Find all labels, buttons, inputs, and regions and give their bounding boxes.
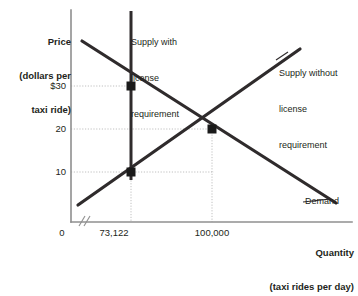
x-tick-73122: 73,122 xyxy=(84,227,144,238)
supply-without-license-curve xyxy=(78,49,300,205)
x-axis-title-line2: (taxi rides per day) xyxy=(228,281,354,292)
x-axis-title-line1: Quantity xyxy=(228,247,354,258)
supply-with-license-label-line3: requirement xyxy=(131,109,179,121)
y-axis-title: Price (dollars per taxi ride) xyxy=(19,14,71,137)
y-tick-10: 10 xyxy=(36,166,66,177)
demand-label: Demand xyxy=(305,196,339,208)
y-tick-20: 20 xyxy=(36,123,66,134)
supply-without-license-label-line2: license xyxy=(279,104,338,116)
supply-without-license-label-line3: requirement xyxy=(279,140,338,152)
supply-with-license-label: Supply with license requirement xyxy=(131,13,179,145)
y-axis-title-line3: taxi ride) xyxy=(19,104,71,115)
supply-without-license-label: Supply without license requirement xyxy=(279,44,338,176)
supply-with-license-label-line2: license xyxy=(131,73,179,85)
x-tick-100000: 100,000 xyxy=(176,227,248,238)
supply-with-license-label-line1: Supply with xyxy=(131,37,179,49)
axis-break-icon xyxy=(79,216,90,226)
y-axis-title-line1: Price xyxy=(19,36,71,47)
supply-without-license-label-line1: Supply without xyxy=(279,68,338,80)
point-supply-cost xyxy=(127,168,136,177)
x-tick-0: 0 xyxy=(55,227,69,238)
point-free-market-equilibrium xyxy=(208,125,217,134)
y-tick-30: $30 xyxy=(36,80,66,91)
